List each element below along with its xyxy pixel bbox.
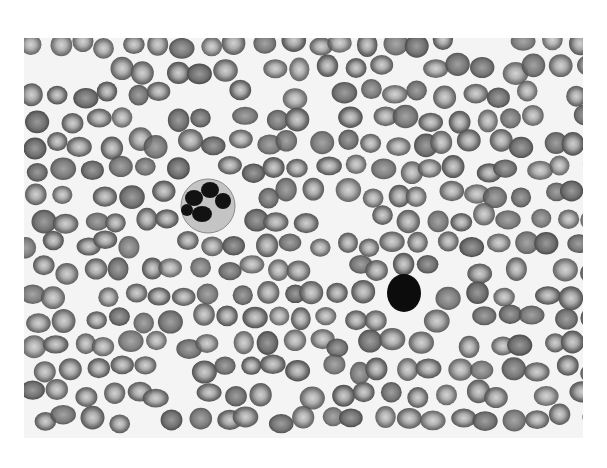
smear-canvas	[24, 38, 583, 438]
lymphocyte	[387, 274, 421, 312]
red-blood-cells	[24, 38, 583, 433]
blood-smear-image	[24, 38, 583, 438]
neutrophil	[181, 179, 235, 233]
